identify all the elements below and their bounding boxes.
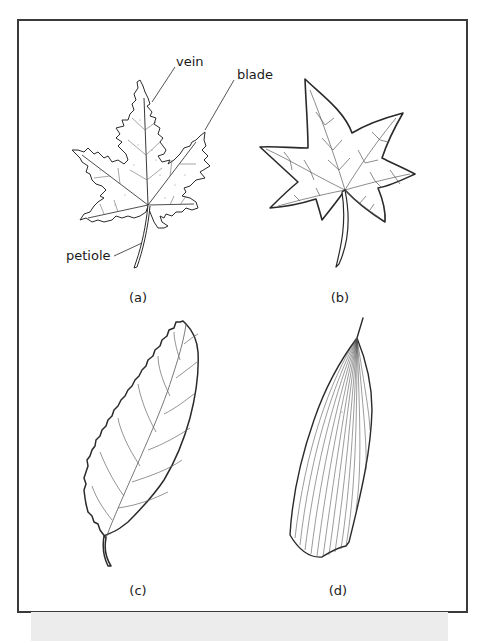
label-blade: blade [237,68,273,81]
caption-d: (d) [318,584,358,597]
petiole-leader-line [114,243,142,256]
leaf-c-serrated [84,321,198,566]
vein-leader-line [152,67,175,102]
leaf-b-star [260,79,415,267]
caption-a: (a) [118,291,158,304]
label-petiole: petiole [66,249,111,262]
leaf-d-parallel [290,318,372,557]
figure-artwork [0,0,485,641]
leaf-a-maple [72,80,210,268]
label-vein: vein [176,55,204,68]
caption-c: (c) [118,584,158,597]
blade-leader-line [205,80,234,130]
caption-b: (b) [320,291,360,304]
